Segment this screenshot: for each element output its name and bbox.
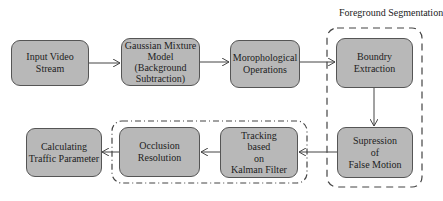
node-input-video-stream: Input VideoStream bbox=[11, 40, 89, 86]
node-boundary-extraction: BoundryExtraction bbox=[336, 38, 413, 88]
node-morphological-operations: MorophologicalOperations bbox=[230, 40, 300, 88]
node-occlusion-resolution: OcclusionResolution bbox=[119, 127, 200, 177]
node-gaussian-mixture-model: Gaussian MixtureModel(BackgroundSubtract… bbox=[121, 38, 200, 86]
foreground-segmentation-label: Foreground Segmentation bbox=[339, 7, 443, 18]
node-suppression-false-motion: SupressionofFalse Motion bbox=[337, 127, 413, 178]
node-kalman-tracking: TrackingbasedonKalman Filter bbox=[220, 127, 298, 178]
node-calculating-traffic-parameter: CalculatingTraffic Parameter bbox=[26, 128, 102, 177]
